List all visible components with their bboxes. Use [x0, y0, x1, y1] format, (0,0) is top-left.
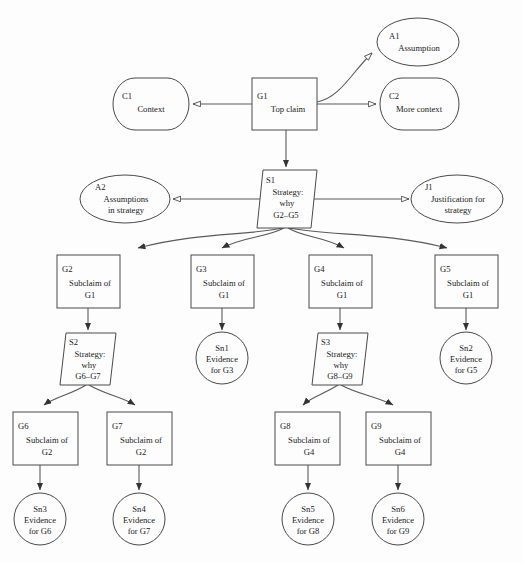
node-s1-id: S1: [266, 175, 275, 185]
node-sn6-line-1: for G9: [387, 526, 410, 536]
node-sn1-id: Sn1: [215, 343, 228, 353]
node-sn6-id: Sn6: [391, 504, 405, 514]
node-g5-line-0: Subclaim of: [447, 278, 489, 288]
node-s2-line-0: Strategy:: [74, 349, 105, 359]
node-j1-id: J1: [425, 182, 433, 192]
edge-s2-g7: [89, 385, 135, 405]
node-g3-line-0: Subclaim of: [203, 278, 245, 288]
node-g9-id: G9: [371, 421, 382, 431]
node-sn2-line-1: for G5: [455, 365, 478, 375]
node-g4-line-0: Subclaim of: [321, 278, 363, 288]
node-sn6-line-0: Evidence: [382, 515, 414, 525]
node-j1-justification[interactable]: J1 Justification for strategy: [411, 175, 503, 223]
edge-s1-g4: [288, 228, 344, 248]
node-g7-goal[interactable]: G7 Subclaim of G2: [107, 412, 172, 465]
edge-s1-g5: [289, 228, 447, 248]
node-s3-line-2: G8–G9: [327, 371, 352, 381]
node-sn5-line-1: for G8: [297, 526, 320, 536]
node-a2-line-1: in strategy: [108, 205, 145, 215]
node-sn4-solution[interactable]: Sn4 Evidence for G7: [113, 493, 165, 545]
node-sn3-id: Sn3: [33, 504, 46, 514]
node-s3-line-0: Strategy:: [326, 349, 357, 359]
node-sn2-solution[interactable]: Sn2 Evidence for G5: [440, 332, 492, 384]
node-s2-strategy[interactable]: S2 Strategy: why G6–G7: [60, 333, 116, 385]
node-g9-line-1: G4: [395, 447, 406, 457]
node-g2-id: G2: [62, 264, 73, 274]
node-c1-line-0: Context: [137, 104, 165, 114]
node-s2-line-2: G6–G7: [75, 371, 101, 381]
node-g8-line-0: Subclaim of: [288, 435, 330, 445]
gsn-diagram-svg: C1 Context G1 Top claim A1 Assumption C2…: [0, 0, 523, 563]
edge-s2-g6: [44, 385, 86, 405]
node-s1-line-2: G2–G5: [273, 210, 298, 220]
edge-s1-g2: [138, 228, 283, 248]
node-g5-id: G5: [440, 264, 451, 274]
edge-s1-g3: [222, 228, 284, 248]
node-s2-id: S2: [69, 337, 78, 347]
node-g7-line-0: Subclaim of: [120, 435, 162, 445]
node-g4-goal[interactable]: G4 Subclaim of G1: [309, 255, 372, 308]
node-a2-assumption[interactable]: A2 Assumptions in strategy: [80, 175, 170, 223]
node-g7-line-1: G2: [136, 447, 147, 457]
node-j1-line-1: strategy: [444, 205, 472, 215]
node-s3-strategy[interactable]: S3 Strategy: why G8–G9: [312, 333, 368, 385]
node-g6-id: G6: [18, 421, 29, 431]
edge-s3-g9: [341, 385, 393, 405]
node-c2-line-0: More context: [396, 104, 443, 114]
node-a1-line-0: Assumption: [398, 43, 440, 53]
assumption-ellipse-shape: [377, 18, 459, 66]
node-s3-id: S3: [321, 337, 330, 347]
node-sn2-line-0: Evidence: [450, 354, 482, 364]
node-sn5-solution[interactable]: Sn5 Evidence for G8: [282, 493, 334, 545]
node-g8-id: G8: [280, 421, 291, 431]
node-sn5-id: Sn5: [301, 504, 314, 514]
node-s2-line-1: why: [82, 360, 98, 370]
node-s1-strategy[interactable]: S1 Strategy: why G2–G5: [257, 170, 317, 228]
node-g5-goal[interactable]: G5 Subclaim of G1: [435, 255, 498, 308]
node-s3-line-1: why: [334, 360, 350, 370]
node-sn1-line-1: for G3: [211, 365, 234, 375]
node-sn3-line-0: Evidence: [24, 515, 56, 525]
node-sn2-id: Sn2: [459, 343, 472, 353]
node-a1-assumption[interactable]: A1 Assumption: [377, 18, 459, 66]
gsn-diagram-canvas: C1 Context G1 Top claim A1 Assumption C2…: [0, 0, 523, 563]
node-a2-line-0: Assumptions: [104, 194, 150, 204]
node-g2-line-1: G1: [85, 290, 96, 300]
node-g6-goal[interactable]: G6 Subclaim of G2: [13, 412, 78, 465]
node-sn3-line-1: for G6: [29, 526, 52, 536]
node-g6-line-1: G2: [42, 447, 53, 457]
node-g1-id: G1: [257, 91, 268, 101]
node-sn4-id: Sn4: [132, 504, 146, 514]
edge-s3-g8: [303, 385, 338, 405]
node-g1-line-0: Top claim: [271, 104, 306, 114]
node-g2-line-0: Subclaim of: [69, 278, 111, 288]
node-g6-line-0: Subclaim of: [26, 435, 68, 445]
node-c2-id: C2: [389, 91, 399, 101]
node-sn3-solution[interactable]: Sn3 Evidence for G6: [14, 493, 66, 545]
node-c2-context[interactable]: C2 More context: [380, 78, 459, 130]
node-c1-context[interactable]: C1 Context: [113, 78, 189, 130]
node-g9-goal[interactable]: G9 Subclaim of G4: [366, 412, 431, 465]
node-sn1-solution[interactable]: Sn1 Evidence for G3: [196, 332, 248, 384]
node-g8-line-1: G4: [304, 447, 315, 457]
node-s1-line-1: why: [280, 198, 296, 208]
node-g4-id: G4: [314, 264, 325, 274]
node-g1-goal[interactable]: G1 Top claim: [252, 78, 317, 130]
node-g9-line-0: Subclaim of: [379, 435, 421, 445]
node-c1-id: C1: [122, 91, 132, 101]
node-g8-goal[interactable]: G8 Subclaim of G4: [275, 412, 340, 465]
node-g5-line-1: G1: [463, 290, 474, 300]
node-g7-id: G7: [112, 421, 123, 431]
node-g2-goal[interactable]: G2 Subclaim of G1: [57, 255, 120, 308]
node-g3-goal[interactable]: G3 Subclaim of G1: [191, 255, 254, 308]
node-a2-id: A2: [95, 182, 106, 192]
node-sn5-line-0: Evidence: [292, 515, 324, 525]
node-g3-id: G3: [196, 264, 207, 274]
node-g4-line-1: G1: [337, 290, 348, 300]
edge-g1-a1: [317, 53, 372, 102]
node-j1-line-0: Justification for: [431, 194, 485, 204]
node-sn1-line-0: Evidence: [206, 354, 238, 364]
node-g3-line-1: G1: [219, 290, 230, 300]
node-s1-line-0: Strategy:: [272, 187, 303, 197]
node-sn6-solution[interactable]: Sn6 Evidence for G9: [372, 493, 424, 545]
